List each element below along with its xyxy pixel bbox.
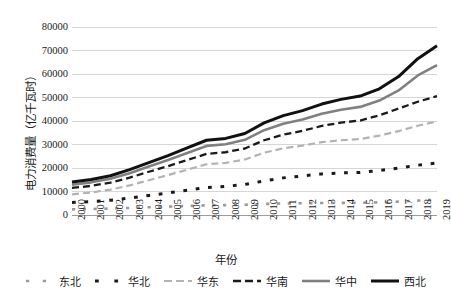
x-tick-label: 2015 bbox=[364, 199, 375, 220]
legend-swatch-icon bbox=[370, 276, 400, 286]
legend-label: 华东 bbox=[197, 273, 219, 289]
x-tick-label: 2006 bbox=[191, 199, 202, 220]
x-tick-label: 2002 bbox=[114, 199, 125, 220]
x-tick-label: 2013 bbox=[326, 199, 337, 220]
x-tick-label: 2010 bbox=[268, 199, 279, 220]
chart-legend: 东北华北华东华南华中西北 bbox=[0, 270, 451, 292]
x-tick-label: 2007 bbox=[210, 199, 221, 220]
x-tick-label: 2004 bbox=[153, 199, 164, 220]
legend-label: 华中 bbox=[335, 273, 357, 289]
x-tick-label: 2018 bbox=[422, 199, 433, 220]
x-tick-label: 2000 bbox=[76, 199, 87, 220]
legend-item[interactable]: 东北 bbox=[25, 273, 81, 289]
x-tick-label: 2012 bbox=[307, 199, 318, 220]
legend-swatch-icon bbox=[301, 276, 331, 286]
legend-label: 西北 bbox=[404, 273, 426, 289]
legend-swatch-icon bbox=[94, 276, 124, 286]
legend-item[interactable]: 华东 bbox=[163, 273, 219, 289]
legend-item[interactable]: 华南 bbox=[232, 273, 288, 289]
legend-item[interactable]: 华中 bbox=[301, 273, 357, 289]
electricity-consumption-line-chart: 电力消费量（亿千瓦时） 0100002000030000400005000060… bbox=[0, 0, 451, 304]
x-tick-label: 2016 bbox=[383, 199, 394, 220]
legend-label: 华南 bbox=[266, 273, 288, 289]
x-tick-label: 2014 bbox=[345, 199, 356, 220]
legend-swatch-icon bbox=[232, 276, 262, 286]
x-tick-label: 2011 bbox=[287, 199, 298, 220]
legend-swatch-icon bbox=[163, 276, 193, 286]
x-tick-label: 2005 bbox=[172, 199, 183, 220]
x-tick-label: 2008 bbox=[230, 199, 241, 220]
legend-label: 东北 bbox=[59, 273, 81, 289]
x-tick-label: 2017 bbox=[403, 199, 414, 220]
x-tick-label: 2009 bbox=[249, 199, 260, 220]
legend-item[interactable]: 西北 bbox=[370, 273, 426, 289]
x-tick-label: 2003 bbox=[134, 199, 145, 220]
legend-item[interactable]: 华北 bbox=[94, 273, 150, 289]
x-axis-title: 年份 bbox=[0, 251, 451, 267]
legend-label: 华北 bbox=[128, 273, 150, 289]
x-tick-label: 2001 bbox=[95, 199, 106, 220]
legend-swatch-icon bbox=[25, 276, 55, 286]
x-tick-label: 2019 bbox=[441, 199, 451, 220]
